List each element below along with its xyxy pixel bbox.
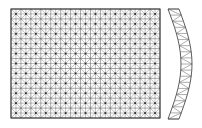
mesh-node xyxy=(105,23,107,25)
mesh-node xyxy=(144,112,146,114)
mesh-node xyxy=(15,53,17,55)
mesh-node xyxy=(154,33,156,35)
mesh-node xyxy=(75,92,77,94)
mesh-node xyxy=(154,43,156,45)
mesh-node xyxy=(134,73,136,75)
mesh-node xyxy=(114,13,116,15)
mesh-node xyxy=(35,33,37,35)
mesh-node xyxy=(65,73,67,75)
mesh-node xyxy=(45,92,47,94)
rectangular-plate-mesh xyxy=(11,9,160,118)
mesh-node xyxy=(25,102,27,104)
mesh-node xyxy=(144,92,146,94)
mesh-node xyxy=(15,73,17,75)
mesh-node xyxy=(124,23,126,25)
mesh-node xyxy=(25,82,27,84)
mesh-node xyxy=(154,82,156,84)
mesh-node xyxy=(144,13,146,15)
mesh-node xyxy=(124,112,126,114)
mesh-node xyxy=(15,102,17,104)
mesh-node xyxy=(35,92,37,94)
mesh-node xyxy=(15,112,17,114)
mesh-node xyxy=(85,102,87,104)
mesh-node xyxy=(95,63,97,65)
mesh-node xyxy=(95,23,97,25)
mesh-node xyxy=(55,23,57,25)
mesh-node xyxy=(65,13,67,15)
mesh-node xyxy=(85,43,87,45)
mesh-node xyxy=(114,43,116,45)
mesh-node xyxy=(25,53,27,55)
mesh-node xyxy=(65,82,67,84)
mesh-node xyxy=(144,63,146,65)
mesh-node xyxy=(134,102,136,104)
mesh-node xyxy=(45,112,47,114)
mesh-node xyxy=(15,33,17,35)
mesh-node xyxy=(95,92,97,94)
mesh-node xyxy=(55,82,57,84)
mesh-node xyxy=(85,33,87,35)
mesh-node xyxy=(75,53,77,55)
mesh-node xyxy=(45,13,47,15)
mesh-node xyxy=(85,13,87,15)
figure-root: Finite element mesh of a rectangular pla… xyxy=(0,0,202,128)
mesh-node xyxy=(15,23,17,25)
mesh-node xyxy=(134,33,136,35)
mesh-node xyxy=(124,43,126,45)
mesh-node xyxy=(55,13,57,15)
mesh-node xyxy=(114,92,116,94)
mesh-node xyxy=(75,82,77,84)
mesh-node xyxy=(35,63,37,65)
mesh-node xyxy=(25,92,27,94)
mesh-node xyxy=(105,33,107,35)
mesh-node xyxy=(124,73,126,75)
mesh-node xyxy=(55,43,57,45)
mesh-node xyxy=(85,112,87,114)
mesh-node xyxy=(65,63,67,65)
mesh-node xyxy=(134,53,136,55)
mesh-node xyxy=(134,92,136,94)
mesh-node xyxy=(154,23,156,25)
mesh-node xyxy=(114,33,116,35)
mesh-node xyxy=(105,112,107,114)
mesh-diagram xyxy=(0,0,202,128)
mesh-node xyxy=(154,102,156,104)
mesh-node xyxy=(45,33,47,35)
mesh-node xyxy=(144,43,146,45)
mesh-node xyxy=(55,33,57,35)
mesh-node xyxy=(25,13,27,15)
mesh-node xyxy=(105,43,107,45)
mesh-node xyxy=(55,112,57,114)
mesh-node xyxy=(124,13,126,15)
mesh-node xyxy=(124,92,126,94)
mesh-node xyxy=(75,63,77,65)
mesh-node xyxy=(65,33,67,35)
mesh-node xyxy=(25,43,27,45)
mesh-node xyxy=(45,43,47,45)
mesh-node xyxy=(124,63,126,65)
mesh-node xyxy=(134,23,136,25)
mesh-node xyxy=(134,43,136,45)
mesh-node xyxy=(15,63,17,65)
mesh-node xyxy=(114,82,116,84)
mesh-node xyxy=(55,102,57,104)
mesh-node xyxy=(85,63,87,65)
mesh-node xyxy=(75,102,77,104)
mesh-node xyxy=(105,82,107,84)
mesh-node xyxy=(95,13,97,15)
mesh-node xyxy=(75,33,77,35)
mesh-node xyxy=(95,53,97,55)
mesh-node xyxy=(25,23,27,25)
mesh-node xyxy=(45,102,47,104)
mesh-node xyxy=(35,102,37,104)
mesh-node xyxy=(114,102,116,104)
mesh-node xyxy=(124,33,126,35)
mesh-node xyxy=(124,102,126,104)
mesh-node xyxy=(85,23,87,25)
mesh-node xyxy=(35,82,37,84)
mesh-node xyxy=(35,53,37,55)
mesh-node xyxy=(25,33,27,35)
mesh-node xyxy=(65,112,67,114)
mesh-node xyxy=(25,73,27,75)
mesh-node xyxy=(65,23,67,25)
